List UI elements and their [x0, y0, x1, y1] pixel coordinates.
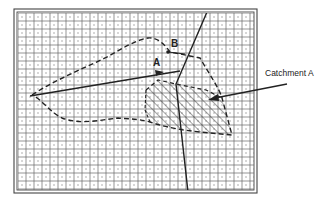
label-point-a: A: [153, 57, 160, 68]
label-point-b: B: [171, 38, 178, 49]
catchment-diagram: A B Catchment A: [0, 0, 318, 205]
catchment-a-callout-label: Catchment A: [265, 68, 314, 78]
